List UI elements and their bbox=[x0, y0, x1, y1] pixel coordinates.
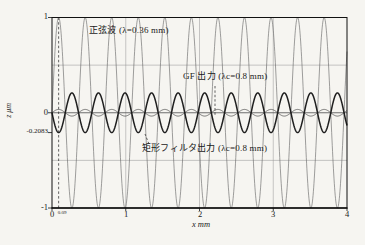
gf-output-label: GF 出力 (λc=0.8 mm) bbox=[183, 72, 267, 82]
rect-filter-output-label: 矩形フィルタ出力 (λc=0.8 mm) bbox=[142, 144, 267, 154]
plot-area bbox=[0, 0, 365, 245]
y-axis-title: z μm bbox=[5, 91, 14, 129]
filter-output-chart: 1 0 -0.2083 -1 0 0.09 1 2 3 4 x mm z μm … bbox=[0, 0, 365, 245]
x-axis-tick-2: 2 bbox=[190, 210, 210, 219]
y-axis-tick-neg0-2083: -0.2083 bbox=[8, 128, 48, 136]
x-axis-tick-3: 3 bbox=[263, 210, 283, 219]
x-axis-minor-tick-0-09: 0.09 bbox=[53, 210, 71, 216]
y-axis-tick-1: 1 bbox=[28, 12, 48, 21]
x-axis-tick-1: 1 bbox=[116, 210, 136, 219]
x-axis-tick-4: 4 bbox=[337, 210, 357, 219]
x-axis-title: x mm bbox=[180, 220, 222, 229]
y-axis-tick-0: 0 bbox=[28, 108, 48, 117]
sine-wave-label: 正弦波 (λ=0.36 mm) bbox=[89, 26, 169, 36]
